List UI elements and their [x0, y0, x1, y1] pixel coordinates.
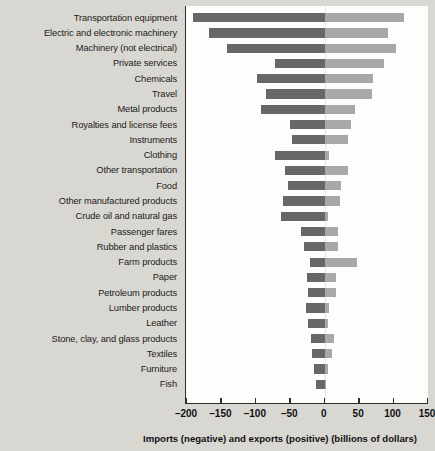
bar-exports [325, 151, 329, 160]
bar-imports [316, 380, 324, 389]
category-label-column: Transportation equipmentElectric and ele… [0, 0, 183, 410]
bar-group [186, 6, 428, 403]
category-label: Clothing [144, 150, 177, 160]
category-label: Electric and electronic machinery [44, 28, 177, 38]
bar-exports [325, 242, 338, 251]
bar-imports [310, 258, 324, 267]
category-label: Transportation equipment [74, 13, 177, 23]
bar-exports [325, 166, 348, 175]
category-label: Crude oil and natural gas [76, 211, 177, 221]
bar-exports [325, 74, 373, 83]
bar-exports [325, 273, 337, 282]
category-label: Royalties and license fees [72, 120, 177, 130]
x-axis-tick [186, 398, 187, 404]
bar-exports [325, 212, 328, 221]
x-axis-tick [427, 398, 428, 404]
category-label: Private services [113, 58, 177, 68]
x-axis-tick [358, 398, 359, 404]
bar-imports [314, 364, 325, 373]
category-label: Other manufactured products [59, 196, 177, 206]
category-label: Farm products [118, 257, 177, 267]
bar-exports [325, 89, 372, 98]
category-label: Paper [153, 272, 177, 282]
bar-exports [325, 44, 396, 53]
bar-exports [325, 380, 326, 389]
category-label: Fish [160, 379, 177, 389]
x-axis-tick-label: –100 [244, 408, 266, 419]
x-axis-tick [324, 398, 325, 404]
bar-exports [325, 196, 340, 205]
x-axis-title: Imports (negative) and exports (positive… [130, 433, 430, 444]
bar-imports [307, 273, 325, 282]
x-axis-tick-label: 50 [353, 408, 364, 419]
bar-exports [325, 258, 357, 267]
x-axis-tick-label: 0 [321, 408, 327, 419]
category-label: Machinery (not electrical) [76, 43, 177, 53]
category-label: Furniture [141, 364, 177, 374]
bar-imports [266, 89, 325, 98]
bar-exports [325, 319, 328, 328]
bar-imports [290, 120, 324, 129]
bar-imports [275, 59, 325, 68]
bar-exports [325, 105, 355, 114]
category-label: Travel [152, 89, 177, 99]
bar-imports [288, 181, 324, 190]
bar-imports [193, 13, 325, 22]
category-label: Passenger fares [111, 227, 177, 237]
bar-imports [281, 212, 324, 221]
category-label: Stone, clay, and glass products [52, 334, 177, 344]
x-axis-tick [255, 398, 256, 404]
bar-imports [283, 196, 324, 205]
bar-imports [301, 227, 325, 236]
x-axis-tick-label: –50 [281, 408, 298, 419]
bar-exports [325, 364, 328, 373]
category-label: Metal products [117, 104, 177, 114]
x-axis-tick [289, 398, 290, 404]
x-axis-tick-label: 100 [384, 408, 401, 419]
bar-exports [325, 227, 339, 236]
bar-exports [325, 303, 329, 312]
bar-imports [209, 28, 325, 37]
category-label: Lumber products [109, 303, 177, 313]
bar-imports [311, 334, 325, 343]
bar-exports [325, 334, 334, 343]
bar-imports [306, 303, 325, 312]
bar-imports [308, 288, 325, 297]
category-label: Instruments [130, 135, 177, 145]
x-axis-tick-label: 150 [419, 408, 435, 419]
bar-exports [325, 181, 342, 190]
category-label: Textiles [147, 349, 177, 359]
bar-exports [325, 59, 384, 68]
bar-exports [325, 13, 404, 22]
bar-imports [275, 151, 325, 160]
bar-imports [312, 349, 324, 358]
bar-imports [292, 135, 325, 144]
category-label: Rubber and plastics [97, 242, 177, 252]
bar-exports [325, 120, 351, 129]
plot-area [185, 6, 428, 404]
bar-imports [261, 105, 324, 114]
category-label: Other transportation [96, 165, 177, 175]
bar-imports [304, 242, 325, 251]
bar-exports [325, 349, 332, 358]
bar-imports [308, 319, 325, 328]
x-axis-tick-label: –200 [175, 408, 197, 419]
category-label: Petroleum products [98, 288, 177, 298]
category-label: Leather [146, 318, 177, 328]
bar-exports [325, 135, 348, 144]
category-label: Chemicals [135, 74, 178, 84]
bar-imports [257, 74, 324, 83]
bar-imports [285, 166, 325, 175]
x-axis-tick-label: –150 [209, 408, 231, 419]
bar-exports [325, 28, 388, 37]
x-axis-tick [220, 398, 221, 404]
bar-exports [325, 288, 336, 297]
bar-imports [227, 44, 325, 53]
category-label: Food [156, 181, 177, 191]
x-axis-tick [393, 398, 394, 404]
